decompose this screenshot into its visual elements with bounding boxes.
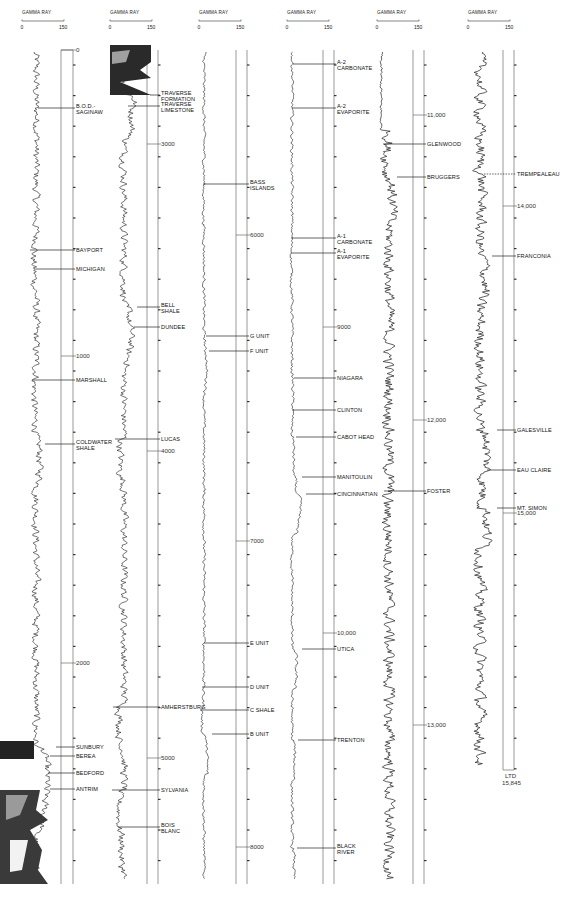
formation-label: CABOT HEAD bbox=[337, 434, 374, 440]
formation-label: D UNIT bbox=[250, 684, 270, 690]
depth-label: 13,000 bbox=[427, 721, 446, 728]
formation-label: A-2EVAPORITE bbox=[337, 103, 370, 115]
formation-label: CLINTON bbox=[337, 407, 362, 413]
formation-label: FRANCONIA bbox=[517, 253, 551, 259]
total-depth-value: 15,845 bbox=[502, 779, 521, 786]
scale-max-label: 150 bbox=[324, 24, 333, 30]
formation-label: CINCINNATIAN bbox=[337, 491, 378, 497]
scale-min-label: 0 bbox=[467, 24, 470, 30]
formation-label: G UNIT bbox=[250, 333, 270, 339]
track-title: GAMMA RAY bbox=[110, 10, 139, 15]
track-title: GAMMA RAY bbox=[199, 10, 228, 15]
panel-3: GAMMA RAY0150600070008000BASSISLANDSG UN… bbox=[198, 10, 275, 884]
track-title: GAMMA RAY bbox=[468, 10, 497, 15]
formation-label: A-2CARBONATE bbox=[337, 59, 372, 71]
formation-label: MANITOULIN bbox=[337, 474, 372, 480]
formation-label: ANTRIM bbox=[76, 786, 98, 792]
panel-2: GAMMA RAY0150300040005000TRAVERSEFORMATI… bbox=[109, 10, 206, 884]
formation-label: BOISBLANC bbox=[161, 822, 180, 834]
formation-label: B.O.D.-SAGINAW bbox=[76, 103, 104, 115]
formation-label: E UNIT bbox=[250, 640, 269, 646]
formation-label: BLACKRIVER bbox=[337, 843, 356, 855]
gamma-ray-header: GAMMA RAY0150 bbox=[109, 10, 156, 30]
gamma-ray-header: GAMMA RAY0150 bbox=[21, 10, 68, 30]
formation-label: BASSISLANDS bbox=[250, 179, 275, 191]
formation-label: GLENWOOD bbox=[427, 141, 461, 147]
well-log-chart: GAMMA RAY0150010002000B.O.D.-SAGINAWBAYP… bbox=[0, 0, 567, 897]
depth-label: 7000 bbox=[250, 537, 264, 544]
total-depth-label: LTD bbox=[505, 772, 517, 779]
track-title: GAMMA RAY bbox=[377, 10, 406, 15]
scale-max-label: 150 bbox=[147, 24, 156, 30]
formation-label: BEREA bbox=[76, 753, 96, 759]
panel-1: GAMMA RAY0150010002000B.O.D.-SAGINAWBAYP… bbox=[0, 10, 112, 884]
depth-label: 12,000 bbox=[427, 416, 446, 423]
scale-max-label: 150 bbox=[59, 24, 68, 30]
formation-label: LUCAS bbox=[161, 436, 180, 442]
depth-label: 14,000 bbox=[517, 202, 536, 209]
formation-label: TRENTON bbox=[337, 737, 365, 743]
formation-label: MICHIGAN bbox=[76, 266, 105, 272]
formation-label: COLDWATERSHALE bbox=[76, 439, 112, 451]
gamma-ray-curve bbox=[201, 52, 209, 879]
shale-fill-zone bbox=[0, 741, 34, 759]
panel-6: GAMMA RAY0150LTD15,84514,00015,000TREMPE… bbox=[467, 10, 560, 786]
formation-label: A-1CARBONATE bbox=[337, 233, 372, 245]
gamma-ray-curve bbox=[115, 52, 137, 879]
formation-label: TREMPEALEAU bbox=[517, 171, 560, 177]
scale-min-label: 0 bbox=[21, 24, 24, 30]
depth-label: 2000 bbox=[76, 659, 90, 666]
formation-label: NIAGARA bbox=[337, 375, 363, 381]
track-title: GAMMA RAY bbox=[287, 10, 316, 15]
scale-min-label: 0 bbox=[286, 24, 289, 30]
formation-label: UTICA bbox=[337, 646, 354, 652]
track-title: GAMMA RAY bbox=[22, 10, 51, 15]
scale-min-label: 0 bbox=[198, 24, 201, 30]
scale-max-label: 150 bbox=[414, 24, 423, 30]
gamma-ray-curve bbox=[473, 52, 492, 765]
scale-max-label: 150 bbox=[505, 24, 514, 30]
log-panels: GAMMA RAY0150010002000B.O.D.-SAGINAWBAYP… bbox=[0, 10, 560, 884]
scale-min-label: 0 bbox=[376, 24, 379, 30]
depth-label: 4000 bbox=[161, 447, 175, 454]
gamma-ray-header: GAMMA RAY0150 bbox=[198, 10, 245, 30]
depth-label: 10,000 bbox=[337, 629, 356, 636]
depth-label: 11,000 bbox=[427, 111, 446, 118]
formation-label: SUNBURY bbox=[76, 744, 104, 750]
depth-label: 8000 bbox=[250, 843, 264, 850]
gamma-ray-curve bbox=[380, 52, 398, 879]
depth-label: 5000 bbox=[161, 754, 175, 761]
formation-label: MT. SIMON bbox=[517, 505, 547, 511]
formation-label: BAYPORT bbox=[76, 247, 103, 253]
formation-label: EAU CLAIRE bbox=[517, 467, 551, 473]
formation-label: GALESVILLE bbox=[517, 427, 552, 433]
formation-label: B UNIT bbox=[250, 731, 269, 737]
formation-label: BELLSHALE bbox=[161, 302, 180, 314]
gamma-ray-header: GAMMA RAY0150 bbox=[467, 10, 514, 30]
formation-label: DUNDEE bbox=[161, 324, 185, 330]
gamma-ray-header: GAMMA RAY0150 bbox=[286, 10, 333, 30]
panel-4: GAMMA RAY0150900010,000A-2CARBONATEA-2EV… bbox=[286, 10, 378, 884]
depth-label: 3000 bbox=[161, 140, 175, 147]
formation-label: TRAVERSELIMESTONE bbox=[161, 101, 194, 113]
formation-label: FOSTER bbox=[427, 488, 450, 494]
formation-label: AMHERSTBURG bbox=[161, 704, 206, 710]
formation-label: BEDFORD bbox=[76, 770, 104, 776]
scale-min-label: 0 bbox=[109, 24, 112, 30]
depth-label: 0 bbox=[76, 46, 80, 53]
gamma-ray-curve bbox=[290, 52, 302, 879]
formation-label: MARSHALL bbox=[76, 377, 107, 383]
depth-label: 6000 bbox=[250, 231, 264, 238]
panel-5: GAMMA RAY015011,00012,00013,000GLENWOODB… bbox=[376, 10, 462, 884]
formation-label: C SHALE bbox=[250, 707, 275, 713]
formation-label: BRUGGERS bbox=[427, 174, 460, 180]
gamma-ray-header: GAMMA RAY0150 bbox=[376, 10, 423, 30]
depth-label: 9000 bbox=[337, 323, 351, 330]
depth-label: 1000 bbox=[76, 352, 90, 359]
scale-max-label: 150 bbox=[236, 24, 245, 30]
formation-label: A-1EVAPORITE bbox=[337, 248, 370, 260]
formation-label: F UNIT bbox=[250, 348, 269, 354]
formation-label: SYLVANIA bbox=[161, 787, 188, 793]
